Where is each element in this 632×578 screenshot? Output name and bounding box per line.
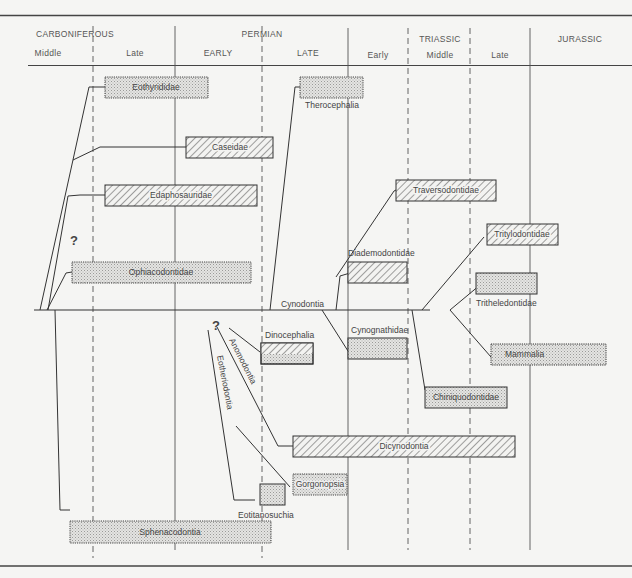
epoch-label: Early — [368, 50, 389, 60]
taxon-mammalia[interactable]: Mammalia — [491, 344, 606, 365]
taxon-tritylodontidae[interactable]: Tritylodontidae — [487, 224, 558, 245]
uncertainty-mark: ? — [70, 233, 78, 248]
epoch-label: LATE — [297, 48, 319, 58]
taxon-ophiacodontidae[interactable]: Ophiacodontidae — [72, 262, 251, 283]
taxon-label: Tritheledontidae — [476, 298, 537, 308]
taxon-cynodontia[interactable]: Cynodontia — [281, 299, 324, 309]
taxon-label: Ophiacodontidae — [129, 267, 194, 277]
epoch-label: Middle — [35, 48, 62, 58]
taxon-label: Diademodontidae — [348, 248, 415, 258]
taxon-dicynodontia[interactable]: Dicynodontia — [293, 436, 515, 457]
taxon-caseidae[interactable]: Caseidae — [186, 137, 273, 158]
taxon-label: Eotitanosuchia — [238, 510, 294, 520]
timescale-header: CARBONIFEROUS PERMIAN TRIASSIC JURASSIC … — [35, 29, 603, 60]
period-label: JURASSIC — [558, 34, 602, 44]
taxon-label: Caseidae — [212, 142, 248, 152]
taxon-sphenacodontia[interactable]: Sphenacodontia — [70, 521, 271, 543]
period-label: CARBONIFEROUS — [36, 29, 114, 39]
taxon-label: Cynognathidae — [351, 325, 408, 335]
taxon-eothyrididae[interactable]: Eothyrididae — [105, 77, 208, 98]
taxon-label: Sphenacodontia — [139, 527, 201, 537]
taxon-diademodontidae[interactable]: Diademodontidae — [348, 248, 415, 283]
epoch-label: Late — [126, 48, 144, 58]
taxon-gorgonopsia[interactable]: Gorgonopsia — [293, 474, 347, 495]
taxon-therocephalia[interactable]: Therocephalia — [300, 77, 363, 110]
phylogeny-diagram: CARBONIFEROUS PERMIAN TRIASSIC JURASSIC … — [0, 0, 632, 578]
epoch-label: EARLY — [204, 48, 233, 58]
taxon-traversodontidae[interactable]: Traversodontidae — [396, 180, 496, 201]
taxon-cynognathidae[interactable]: Cynognathidae — [348, 325, 408, 359]
taxon-tritheledontidae[interactable]: Tritheledontidae — [476, 273, 537, 308]
period-label: TRIASSIC — [419, 34, 461, 44]
taxon-label: Traversodontidae — [413, 185, 479, 195]
taxon-label: Eothyrididae — [132, 82, 180, 92]
epoch-label: Late — [491, 50, 509, 60]
taxon-label: Gorgonopsia — [296, 479, 345, 489]
taxon-eotheriodontia[interactable]: Eotheriodontia — [215, 354, 235, 410]
taxon-label: Therocephalia — [305, 100, 359, 110]
epoch-label: Middle — [427, 50, 454, 60]
taxon-edaphosauridae[interactable]: Edaphosauridae — [105, 185, 257, 206]
taxon-label: Dinocephalia — [265, 330, 314, 340]
taxon-label: Mammalia — [505, 349, 544, 359]
taxon-label: Edaphosauridae — [150, 190, 212, 200]
taxon-label: Dicynodontia — [379, 441, 428, 451]
taxon-label: Chiniquodontidae — [433, 392, 499, 402]
taxon-chiniquodontidae[interactable]: Chiniquodontidae — [425, 387, 507, 408]
taxon-eotitanosuchia[interactable]: Eotitanosuchia — [238, 484, 294, 520]
taxon-dinocephalia[interactable]: Dinocephalia — [261, 330, 314, 364]
uncertainty-mark: ? — [212, 318, 220, 333]
taxon-label: Tritylodontidae — [494, 229, 550, 239]
